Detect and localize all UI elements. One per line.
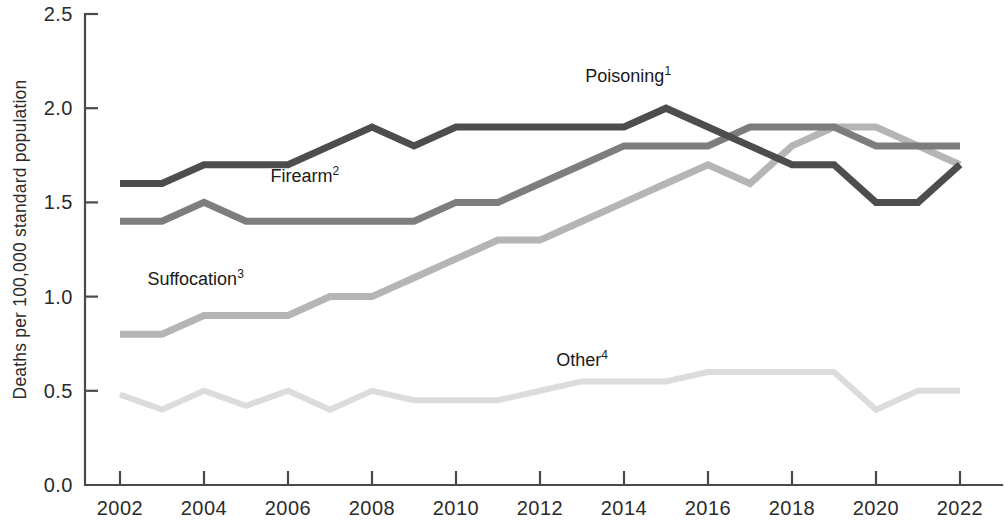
y-tick-label: 0.0 [44,474,73,496]
x-tick-label: 2014 [601,497,648,519]
annotation-firearm: Firearm2 [270,164,339,186]
series-line-suffocation [120,127,960,334]
y-tick-label: 0.5 [44,380,73,402]
x-tick-label: 2016 [685,497,732,519]
x-tick-label: 2004 [181,497,228,519]
axes: 0.00.51.01.52.02.52002200420062008201020… [44,3,1002,519]
y-tick-label: 1.5 [44,191,73,213]
y-axis-title: Deaths per 100,000 standard population [10,80,30,400]
y-axis-title: Deaths per 100,000 standard population [10,80,30,400]
series-line-other [120,372,960,410]
annotation-poisoning: Poisoning1 [585,64,671,86]
line-chart: 0.00.51.01.52.02.52002200420062008201020… [0,0,1006,523]
annotation-suffocation: Suffocation3 [147,267,244,289]
annotation-other: Other4 [556,348,608,370]
x-tick-label: 2008 [349,497,396,519]
axis-spine [85,14,1002,485]
series-line-poisoning [120,108,960,202]
x-tick-label: 2018 [769,497,816,519]
y-tick-label: 1.0 [44,286,73,308]
x-tick-label: 2010 [433,497,480,519]
y-tick-label: 2.5 [44,3,73,25]
x-tick-label: 2006 [265,497,312,519]
series-line-firearm [120,127,960,221]
y-tick-label: 2.0 [44,97,73,119]
x-tick-label: 2002 [97,497,144,519]
x-tick-label: 2020 [853,497,900,519]
x-tick-label: 2022 [937,497,984,519]
series-lines [120,108,960,409]
chart-page: 0.00.51.01.52.02.52002200420062008201020… [0,0,1006,523]
x-tick-label: 2012 [517,497,564,519]
